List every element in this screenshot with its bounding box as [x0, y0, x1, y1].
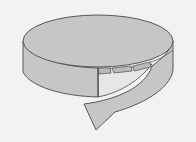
tab-1	[98, 68, 111, 74]
top-face	[23, 15, 173, 67]
cylinder-unwrap-diagram	[0, 0, 196, 142]
